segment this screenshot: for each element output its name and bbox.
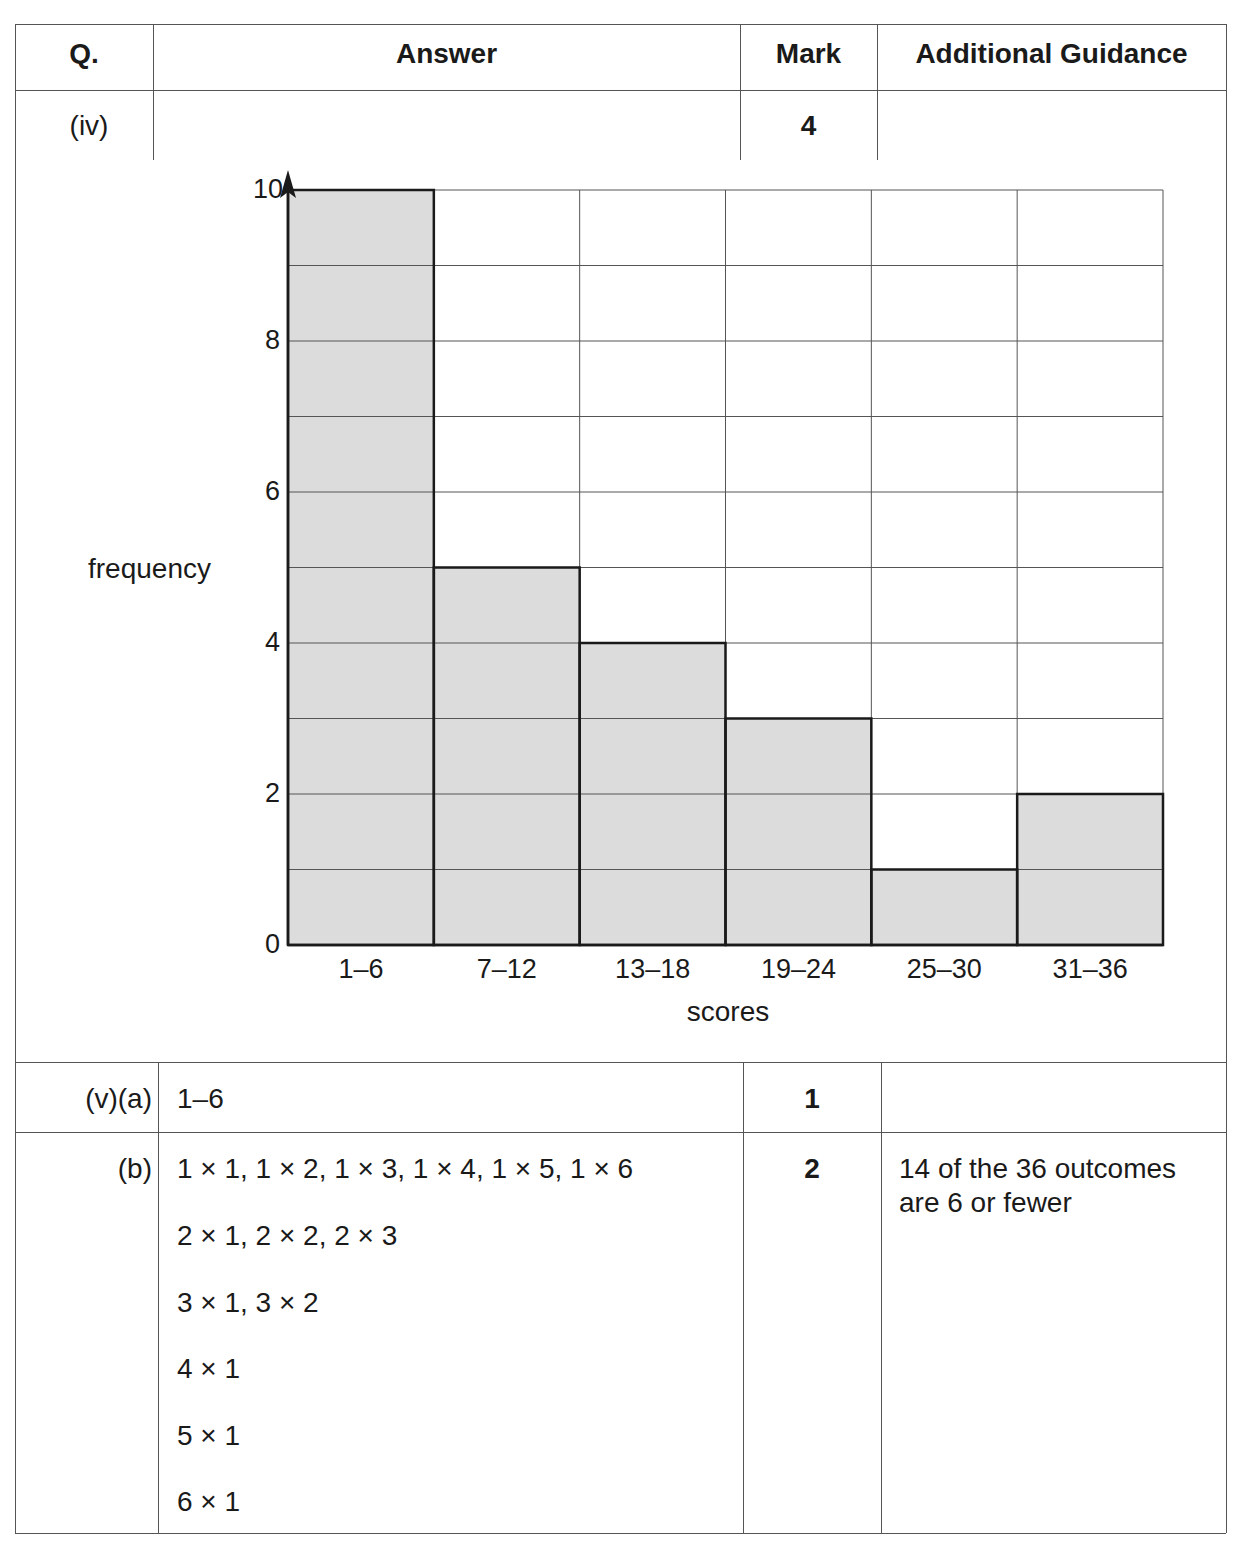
x-axis-label: scores [628,996,828,1028]
row-b-answer-line-5: 5 × 1 [177,1420,240,1452]
x-tick-label: 7–12 [434,954,580,985]
y-tick-label: 4 [240,627,280,658]
row-b-q: (b) [15,1153,152,1185]
x-tick-label: 25–30 [871,954,1017,985]
y-tick-label: 2 [240,778,280,809]
x-tick-label: 13–18 [580,954,726,985]
x-tick-label: 31–36 [1017,954,1163,985]
row-b-answer-line-3: 3 × 1, 3 × 2 [177,1287,319,1319]
table-bottom-border [15,1533,1226,1534]
x-tick-label: 1–6 [288,954,434,985]
row-va-bottom-border [15,1132,1226,1133]
y-tick-label: 0 [240,929,280,960]
chart-row-bottom-border [15,1062,1226,1063]
row-va-answer: 1–6 [177,1083,224,1115]
col-divider-answer-lower [743,1062,744,1533]
y-axis-label: frequency [88,553,211,585]
x-tick-label: 19–24 [726,954,872,985]
row-b-answer-line-4: 4 × 1 [177,1353,240,1385]
col-divider-q-lower [158,1062,159,1533]
row-b-mark: 2 [743,1153,881,1185]
bar-fill-4 [871,870,1017,946]
y-tick-label: 8 [240,325,280,356]
bar-fill-1 [434,568,580,946]
y-tick-label: 10 [243,174,283,205]
row-b-answer-line-2: 2 × 1, 2 × 2, 2 × 3 [177,1220,397,1252]
row-va-q: (v)(a) [15,1083,152,1115]
bar-fill-3 [726,719,872,946]
col-divider-mark-lower [881,1062,882,1533]
y-tick-label: 6 [240,476,280,507]
row-va-mark: 1 [743,1083,881,1115]
row-b-guidance-line-2: are 6 or fewer [899,1187,1072,1219]
histogram-svg [0,0,1254,1060]
row-b-answer-line-1: 1 × 1, 1 × 2, 1 × 3, 1 × 4, 1 × 5, 1 × 6 [177,1153,633,1185]
row-b-answer-line-6: 6 × 1 [177,1486,240,1518]
row-b-guidance-line-1: 14 of the 36 outcomes [899,1153,1176,1185]
